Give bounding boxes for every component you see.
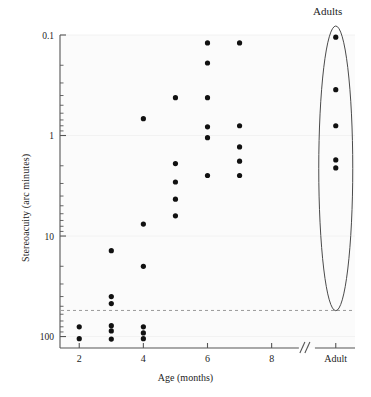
data-point	[205, 60, 210, 65]
data-point	[141, 330, 146, 335]
data-point	[333, 165, 338, 170]
data-point	[237, 159, 242, 164]
data-point	[237, 40, 242, 45]
data-point	[141, 324, 146, 329]
data-point	[333, 87, 338, 92]
data-point	[141, 221, 146, 226]
x-axis-tick-label: 4	[141, 353, 146, 364]
data-point	[205, 124, 210, 129]
y-axis-title: Stereoacuity (arc minutes)	[20, 154, 31, 262]
data-point	[109, 336, 114, 341]
y-axis-tick-label: 100	[40, 332, 55, 342]
data-point	[109, 323, 114, 328]
data-point	[109, 301, 114, 306]
data-point	[237, 123, 242, 128]
data-point	[141, 264, 146, 269]
plot-background	[60, 35, 355, 348]
data-point	[141, 116, 146, 121]
data-point	[109, 294, 114, 299]
y-axis-tick-label: 10	[45, 232, 55, 242]
adults-group-label: Adults	[313, 5, 342, 17]
data-point	[77, 336, 82, 341]
x-axis-title: Age (months)	[0, 372, 371, 383]
data-point	[109, 328, 114, 333]
x-axis-tick-label: Adult	[324, 353, 347, 364]
data-point	[205, 40, 210, 45]
data-point	[205, 173, 210, 178]
data-point	[173, 161, 178, 166]
data-point	[173, 179, 178, 184]
data-point	[173, 95, 178, 100]
data-point	[237, 144, 242, 149]
data-point	[77, 324, 82, 329]
plot-canvas: 0.11101002468Adult	[0, 0, 371, 397]
x-axis-tick-label: 8	[269, 353, 274, 364]
y-axis-tick-label: 0.1	[42, 31, 54, 41]
stereoacuity-scatter-figure: 0.11101002468Adult Stereoacuity (arc min…	[0, 0, 371, 397]
data-point	[109, 248, 114, 253]
data-point	[237, 173, 242, 178]
data-point	[141, 336, 146, 341]
data-point	[173, 197, 178, 202]
x-axis-tick-label: 2	[77, 353, 82, 364]
data-point	[333, 157, 338, 162]
x-axis-tick-label: 6	[205, 353, 210, 364]
data-point	[333, 35, 338, 40]
data-point	[333, 123, 338, 128]
data-point	[205, 135, 210, 140]
data-point	[205, 95, 210, 100]
data-point	[173, 213, 178, 218]
y-axis-tick-label: 1	[49, 131, 54, 141]
